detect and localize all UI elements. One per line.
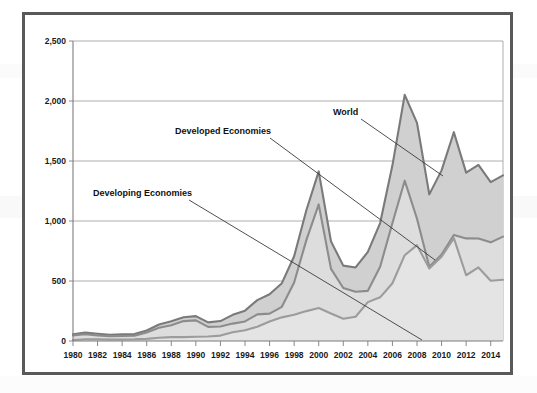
x-axis-tick-label: 2004 — [358, 350, 377, 360]
x-axis-tick-label: 2014 — [481, 350, 500, 360]
x-axis-tick-label: 1986 — [137, 350, 156, 360]
series-areas-group — [73, 95, 503, 341]
x-axis-tick-label: 2008 — [408, 350, 427, 360]
figure-frame: 05001,0001,5002,0002,500 198019821984198… — [22, 12, 513, 375]
x-axis-tick-label: 1998 — [285, 350, 304, 360]
x-axis-tick-label: 1982 — [88, 350, 107, 360]
x-axis-tick-label: 1994 — [236, 350, 255, 360]
y-axis-tick-label: 0 — [61, 336, 66, 346]
y-axis-tick-label: 1,500 — [45, 156, 67, 166]
y-axis-tick-labels: 05001,0001,5002,0002,500 — [45, 36, 67, 346]
x-axis-tick-label: 1996 — [260, 350, 279, 360]
x-axis-tick-label: 1990 — [186, 350, 205, 360]
x-axis-tick-label: 1980 — [64, 350, 83, 360]
area-chart: 05001,0001,5002,0002,500 198019821984198… — [25, 15, 510, 372]
y-axis-tick-label: 2,000 — [45, 96, 67, 106]
x-axis-tick-label: 2002 — [334, 350, 353, 360]
annotation-label-developing-economies: Developing Economies — [93, 188, 192, 198]
x-axis-tick-label: 2012 — [457, 350, 476, 360]
x-axis-tick-labels: 1980198219841986198819901992199419961998… — [64, 350, 501, 360]
x-axis-tick-label: 1984 — [113, 350, 132, 360]
x-axis-tick-label: 1992 — [211, 350, 230, 360]
scan-artifact-lower — [0, 376, 537, 393]
y-axis-tick-label: 1,000 — [45, 216, 67, 226]
x-axis-tick-label: 2010 — [432, 350, 451, 360]
x-axis-tick-label: 2006 — [383, 350, 402, 360]
y-axis-tick-label: 2,500 — [45, 36, 67, 46]
x-axis-tick-label: 1988 — [162, 350, 181, 360]
annotation-label-world: World — [333, 107, 358, 117]
y-axis-tick-label: 500 — [52, 276, 66, 286]
annotation-label-developed-economies: Developed Economies — [175, 126, 271, 136]
x-axis-tick-label: 2000 — [309, 350, 328, 360]
